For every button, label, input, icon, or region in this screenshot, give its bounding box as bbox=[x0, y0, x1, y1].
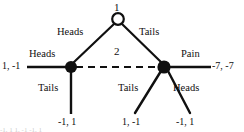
edge-label-left-heads: Heads bbox=[29, 49, 55, 60]
payoff-left-heads: 1, -1 bbox=[2, 61, 20, 71]
node-left-decision-player2 bbox=[65, 61, 77, 73]
game-tree-canvas bbox=[0, 0, 244, 132]
information-set-player-2-label: 2 bbox=[114, 46, 120, 57]
edge-label-root-heads: Heads bbox=[57, 27, 83, 38]
node-right-decision-player2 bbox=[157, 60, 170, 73]
payoff-right-pain: -7, -7 bbox=[212, 61, 234, 71]
edge-label-right-pain: Pain bbox=[181, 49, 200, 60]
edge-label-right-heads: Heads bbox=[173, 83, 199, 94]
game-tree-diagram: 1 2 Heads Tails Heads Tails Pain Tails H… bbox=[0, 0, 244, 132]
player-1-label: 1 bbox=[114, 2, 120, 13]
node-root-player1 bbox=[112, 13, 124, 25]
edge-label-left-tails: Tails bbox=[38, 83, 58, 94]
edge-right-tails-outcome bbox=[135, 71, 161, 113]
edge-label-root-tails: Tails bbox=[139, 27, 159, 38]
edge-label-right-tails: Tails bbox=[118, 83, 138, 94]
cut-off-caption-fragment: -1, 1 1, -1 -1, 1 bbox=[0, 126, 244, 132]
